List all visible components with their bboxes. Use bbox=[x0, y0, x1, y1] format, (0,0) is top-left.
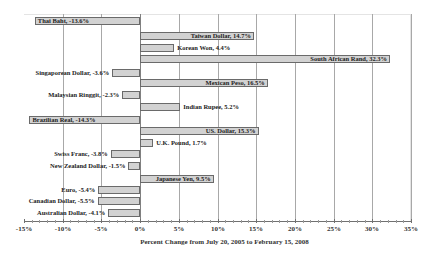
bar bbox=[122, 91, 140, 99]
minor-tick bbox=[132, 220, 133, 223]
bar-label: Singaporean Dollar, -3.6% bbox=[36, 69, 110, 77]
gridline bbox=[372, 14, 373, 222]
bar bbox=[128, 162, 140, 170]
minor-tick bbox=[264, 220, 265, 223]
x-tick-label: 25% bbox=[327, 225, 341, 233]
bar-label: Korean Won, 4.4% bbox=[177, 44, 230, 52]
bar-label: Thai Baht, -13.6% bbox=[38, 17, 89, 25]
major-tick bbox=[179, 219, 180, 223]
minor-tick bbox=[117, 220, 118, 223]
bar bbox=[108, 209, 140, 217]
minor-tick bbox=[94, 220, 95, 223]
minor-tick bbox=[326, 220, 327, 223]
major-tick bbox=[63, 219, 64, 223]
minor-tick bbox=[341, 220, 342, 223]
bar-label: Malaysian Ringgit, -2.3% bbox=[48, 91, 119, 99]
x-tick-label: -10% bbox=[55, 225, 71, 233]
minor-tick bbox=[241, 220, 242, 223]
minor-tick bbox=[70, 220, 71, 223]
bar-label: US. Dollar, 15.3% bbox=[206, 127, 256, 135]
minor-tick bbox=[202, 220, 203, 223]
x-tick-label: -5% bbox=[95, 225, 108, 233]
minor-tick bbox=[310, 220, 311, 223]
minor-tick bbox=[365, 220, 366, 223]
x-tick-label: 35% bbox=[404, 225, 418, 233]
minor-tick bbox=[357, 220, 358, 223]
major-tick bbox=[218, 219, 219, 223]
major-tick bbox=[101, 219, 102, 223]
minor-tick bbox=[32, 220, 33, 223]
minor-tick bbox=[187, 220, 188, 223]
minor-tick bbox=[210, 220, 211, 223]
minor-tick bbox=[248, 220, 249, 223]
minor-tick bbox=[287, 220, 288, 223]
minor-tick bbox=[403, 220, 404, 223]
bar-label: Taiwan Dollar, 14.7% bbox=[191, 32, 251, 40]
minor-tick bbox=[148, 220, 149, 223]
minor-tick bbox=[109, 220, 110, 223]
minor-tick bbox=[380, 220, 381, 223]
minor-tick bbox=[225, 220, 226, 223]
minor-tick bbox=[86, 220, 87, 223]
minor-tick bbox=[163, 220, 164, 223]
x-axis-title: Percent Change from July 20, 2005 to Feb… bbox=[0, 238, 433, 246]
minor-tick bbox=[396, 220, 397, 223]
currency-change-bar-chart: Thai Baht, -13.6%Taiwan Dollar, 14.7%Kor… bbox=[0, 0, 433, 258]
gridline bbox=[411, 14, 412, 222]
x-tick-label: 30% bbox=[365, 225, 379, 233]
minor-tick bbox=[47, 220, 48, 223]
minor-tick bbox=[78, 220, 79, 223]
minor-tick bbox=[303, 220, 304, 223]
gridline bbox=[295, 14, 296, 222]
bar-label: Indian Rupee, 5.2% bbox=[183, 103, 239, 111]
bar-label: Canadian Dollar, -5.5% bbox=[29, 197, 95, 205]
major-tick bbox=[334, 219, 335, 223]
bar-label: South African Rand, 32.3% bbox=[310, 55, 387, 63]
minor-tick bbox=[55, 220, 56, 223]
minor-tick bbox=[194, 220, 195, 223]
bar bbox=[112, 69, 140, 77]
bar-label: Mexican Peso, 16.5% bbox=[206, 79, 265, 87]
minor-tick bbox=[318, 220, 319, 223]
bar-label: New Zealand Dollar, -1.5% bbox=[50, 162, 125, 170]
minor-tick bbox=[272, 220, 273, 223]
minor-tick bbox=[125, 220, 126, 223]
x-tick-label: -15% bbox=[16, 225, 32, 233]
minor-tick bbox=[171, 220, 172, 223]
bar-label: Swiss Franc, -3.8% bbox=[54, 150, 107, 158]
minor-tick bbox=[39, 220, 40, 223]
bar-label: Australian Dollar, -4.1% bbox=[37, 209, 105, 217]
major-tick bbox=[372, 219, 373, 223]
x-tick-label: 5% bbox=[174, 225, 185, 233]
x-tick-label: 15% bbox=[249, 225, 263, 233]
bar-label: Japanese Yen, 9.5% bbox=[156, 175, 211, 183]
gridline bbox=[256, 14, 257, 222]
minor-tick bbox=[349, 220, 350, 223]
x-tick-label: 0% bbox=[135, 225, 146, 233]
minor-tick bbox=[233, 220, 234, 223]
bar-label: Euro, -5.4% bbox=[61, 186, 95, 194]
x-tick-label: 20% bbox=[288, 225, 302, 233]
bar bbox=[98, 197, 141, 205]
major-tick bbox=[411, 219, 412, 223]
major-tick bbox=[24, 219, 25, 223]
bar-label: Brazilian Real, -14.3% bbox=[32, 116, 95, 124]
bar bbox=[140, 44, 174, 52]
bar-label: U.K. Pound, 1.7% bbox=[156, 139, 207, 147]
major-tick bbox=[295, 219, 296, 223]
bar bbox=[140, 103, 180, 111]
gridline bbox=[334, 14, 335, 222]
major-tick bbox=[256, 219, 257, 223]
bar bbox=[111, 150, 140, 158]
minor-tick bbox=[156, 220, 157, 223]
minor-tick bbox=[388, 220, 389, 223]
x-tick-label: 10% bbox=[211, 225, 225, 233]
bar bbox=[140, 139, 153, 147]
minor-tick bbox=[279, 220, 280, 223]
major-tick bbox=[140, 219, 141, 223]
bar bbox=[98, 186, 140, 194]
